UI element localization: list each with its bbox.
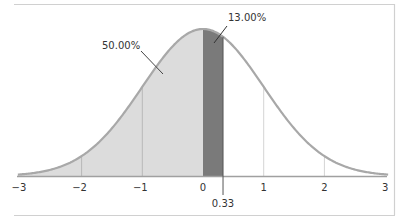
x-tick-labels: −3−2−10123 bbox=[12, 182, 389, 193]
x-tick-label: 1 bbox=[261, 182, 267, 193]
x-tick-label: 2 bbox=[321, 182, 327, 193]
annotation-label-mid: 13.00% bbox=[228, 12, 266, 23]
z-marker-label: 0.33 bbox=[212, 198, 234, 209]
shaded-region-zero-to-z bbox=[203, 29, 223, 176]
x-tick-label: 3 bbox=[382, 182, 388, 193]
normal-distribution-chart: −3−2−10123 0.33 50.00% 13.00% bbox=[0, 0, 398, 220]
shaded-region-left bbox=[18, 29, 203, 176]
annotation-label-left: 50.00% bbox=[102, 40, 140, 51]
x-tick-label: −3 bbox=[12, 182, 27, 193]
x-tick-label: −2 bbox=[72, 182, 87, 193]
x-tick-label: −1 bbox=[133, 182, 148, 193]
x-tick-label: 0 bbox=[200, 182, 206, 193]
